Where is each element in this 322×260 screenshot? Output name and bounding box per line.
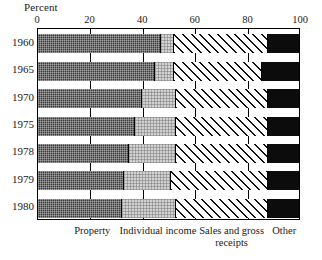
bar-row-1965 [38, 62, 299, 81]
x-tick-label-0: 0 [34, 14, 39, 25]
legend-label-line2: receipts [199, 237, 264, 249]
bar-segment-1978-property [38, 144, 129, 163]
x-tick-label-40: 40 [137, 14, 148, 25]
bar-row-1970 [38, 89, 299, 108]
bar-segment-1970-property [38, 89, 142, 108]
bar-segment-1980-property [38, 199, 122, 218]
year-label-1970: 1970 [0, 91, 34, 103]
bar-row-1978 [38, 144, 299, 163]
year-label-1980: 1980 [0, 200, 34, 212]
bar-segment-1979-sales-and-gross-receipts [171, 171, 268, 190]
legend-label-sales-and-gross: Sales and grossreceipts [199, 225, 264, 249]
bar-segment-1965-property [38, 62, 155, 81]
bar-segment-1980-sales-and-gross-receipts [176, 199, 267, 218]
bar-segment-1975-other [268, 117, 299, 136]
bar-segment-1960-other [268, 34, 299, 53]
bar-segment-1970-other [268, 89, 299, 108]
stacked-bar-chart: Percent 020406080100 1960196519701975197… [0, 0, 322, 260]
year-label-1960: 1960 [0, 36, 34, 48]
year-label-1979: 1979 [0, 173, 34, 185]
bar-segment-1970-sales-and-gross-receipts [176, 89, 267, 108]
legend-label-other: Other [272, 225, 296, 237]
bar-segment-1975-property [38, 117, 135, 136]
bar-segment-1975-individual-income [135, 117, 177, 136]
legend-label-line1: Property [74, 225, 110, 236]
bar-segment-1979-other [268, 171, 299, 190]
bar-row-1980 [38, 199, 299, 218]
bar-segment-1978-individual-income [129, 144, 176, 163]
legend-label-line1: Other [272, 225, 296, 236]
legend-label-property: Property [74, 225, 110, 237]
bar-segment-1978-other [268, 144, 299, 163]
year-label-1965: 1965 [0, 63, 34, 75]
bar-segment-1975-sales-and-gross-receipts [176, 117, 267, 136]
year-label-1978: 1978 [0, 145, 34, 157]
bar-segment-1980-individual-income [122, 199, 177, 218]
bar-segment-1960-sales-and-gross-receipts [174, 34, 268, 53]
x-tick-label-100: 100 [292, 14, 308, 25]
legend-label-individual-income: Individual income [120, 225, 197, 237]
bar-row-1960 [38, 34, 299, 53]
bar-segment-1960-property [38, 34, 161, 53]
plot-area [37, 28, 300, 220]
x-tick-label-20: 20 [84, 14, 95, 25]
bar-segment-1979-property [38, 171, 124, 190]
bar-row-1975 [38, 117, 299, 136]
axis-title-percent: Percent [24, 1, 58, 13]
legend-label-line1: Sales and gross [199, 225, 264, 236]
bar-segment-1965-other [262, 62, 299, 81]
year-label-1975: 1975 [0, 118, 34, 130]
legend-label-line1: Individual income [120, 225, 197, 236]
bar-segment-1960-individual-income [161, 34, 174, 53]
x-tick-label-80: 80 [242, 14, 253, 25]
x-tick-label-60: 60 [190, 14, 201, 25]
bar-segment-1978-sales-and-gross-receipts [176, 144, 267, 163]
bar-row-1979 [38, 171, 299, 190]
bar-segment-1970-individual-income [142, 89, 176, 108]
bar-segment-1965-individual-income [155, 62, 173, 81]
bar-segment-1979-individual-income [124, 171, 171, 190]
bar-segment-1980-other [268, 199, 299, 218]
bar-segment-1965-sales-and-gross-receipts [174, 62, 263, 81]
